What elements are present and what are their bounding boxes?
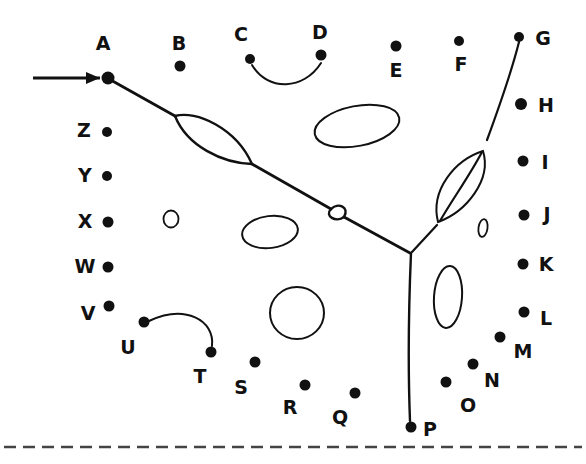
node-label-b: B [172, 32, 186, 54]
node-dot-u[interactable] [139, 317, 150, 328]
loop-lens-upper-left [175, 115, 252, 164]
node-dot-h[interactable] [515, 98, 527, 110]
node-dot-s[interactable] [250, 357, 261, 368]
node-dot-a[interactable] [102, 72, 115, 85]
node-label-z: Z [77, 119, 91, 141]
node-label-y: Y [77, 164, 92, 186]
node-label-q: Q [332, 406, 348, 428]
node-dot-layer [102, 32, 530, 433]
node-dot-i[interactable] [518, 156, 529, 167]
node-dot-q[interactable] [350, 388, 361, 399]
node-label-j: J [541, 203, 550, 225]
diagram-svg: ABCDEFGHIJKLMNOPQRSTUVWXYZ [0, 0, 586, 464]
node-dot-l[interactable] [519, 307, 530, 318]
node-label-f: F [455, 53, 468, 75]
entry-arrow-head [86, 72, 100, 84]
node-label-o: O [460, 394, 476, 416]
node-dot-g[interactable] [514, 32, 524, 42]
node-label-t: T [194, 365, 207, 387]
ellipse-tilted-top [311, 98, 403, 154]
blob-layer [164, 98, 489, 339]
node-label-h: H [538, 94, 554, 116]
node-dot-y[interactable] [102, 171, 112, 181]
node-label-u: U [120, 336, 135, 358]
node-dot-r[interactable] [300, 380, 311, 391]
node-label-n: N [484, 369, 500, 391]
ellipse-mid-left [240, 213, 299, 252]
node-label-e: E [390, 59, 403, 81]
node-dot-c[interactable] [245, 54, 255, 64]
node-dot-p[interactable] [406, 422, 417, 433]
node-label-a: A [96, 32, 111, 54]
loop-lens-middle [329, 206, 346, 220]
node-dot-b[interactable] [175, 61, 186, 72]
node-dot-o[interactable] [441, 377, 452, 388]
node-dot-f[interactable] [454, 36, 464, 46]
arc-c-to-d [252, 63, 321, 84]
glyph-zero-right [477, 218, 488, 237]
node-dot-n[interactable] [468, 359, 479, 370]
entry-arrow [33, 72, 100, 84]
node-label-l: L [540, 307, 552, 329]
ellipse-small-circle-left [164, 211, 179, 228]
node-label-v: V [81, 302, 96, 324]
node-label-x: X [78, 210, 93, 232]
node-label-layer: ABCDEFGHIJKLMNOPQRSTUVWXYZ [75, 21, 555, 440]
node-dot-j[interactable] [519, 210, 530, 221]
node-dot-w[interactable] [103, 262, 114, 273]
arc-u-to-t [149, 314, 212, 346]
node-dot-x[interactable] [103, 217, 114, 228]
node-label-m: M [514, 340, 533, 362]
node-label-s: S [234, 376, 248, 398]
node-dot-d[interactable] [316, 50, 327, 61]
node-dot-m[interactable] [495, 332, 506, 343]
node-dot-e[interactable] [391, 41, 402, 52]
stem-vertical [409, 253, 411, 421]
ellipse-vertical-right [432, 265, 464, 329]
figure-canvas: ABCDEFGHIJKLMNOPQRSTUVWXYZ [0, 0, 586, 464]
node-dot-z[interactable] [102, 127, 112, 137]
node-label-i: I [541, 151, 548, 173]
node-dot-k[interactable] [518, 259, 529, 270]
node-label-k: K [539, 253, 555, 275]
circle-lower-mid [270, 287, 324, 339]
node-label-c: C [234, 23, 248, 45]
node-dot-t[interactable] [206, 347, 217, 358]
node-label-p: P [423, 418, 437, 440]
node-label-g: G [535, 27, 551, 49]
node-dot-v[interactable] [104, 301, 115, 312]
node-label-d: D [312, 21, 328, 43]
node-label-r: R [283, 396, 298, 418]
node-label-w: W [75, 255, 96, 277]
